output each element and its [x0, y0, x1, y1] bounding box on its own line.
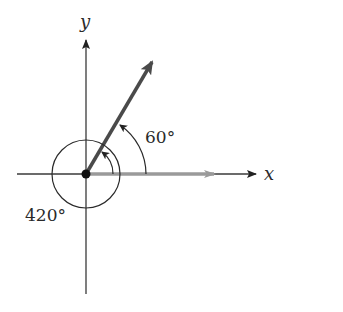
angle-60-arc	[120, 125, 146, 174]
y-axis-label: y	[79, 11, 91, 32]
angle-420-label: 420°	[25, 205, 66, 225]
x-axis-label: x	[264, 163, 274, 184]
vertex-point	[82, 170, 91, 179]
terminal-side-ray	[86, 62, 152, 174]
coterminal-angle-diagram: y x 60° 420°	[0, 0, 343, 312]
angle-60-label: 60°	[145, 127, 175, 147]
